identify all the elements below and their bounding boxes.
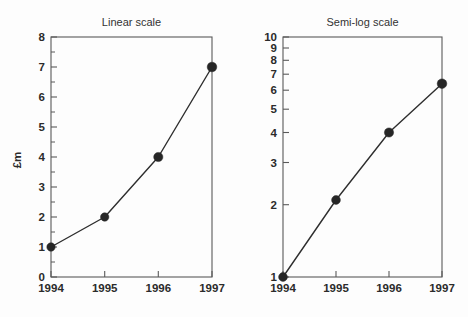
y-tick-label-linear-4: 4	[39, 151, 46, 163]
plot-frame-semilog	[283, 37, 442, 277]
y-tick-label-linear-1: 1	[39, 241, 46, 253]
y-tick-linear-4: 4	[39, 151, 57, 163]
data-point-linear-1997	[207, 62, 217, 72]
y-tick-label-semilog-9: 9	[271, 42, 277, 54]
data-point-semilog-1994	[279, 273, 288, 282]
data-point-semilog-1995	[332, 196, 341, 205]
x-tick-label-semilog-1997: 1997	[429, 282, 455, 294]
panel-semilog-scale: Semi-log scale 1 2 3 4 5	[264, 16, 455, 294]
y-tick-label-linear-3: 3	[39, 181, 45, 193]
y-tick-label-linear-8: 8	[39, 31, 46, 43]
data-point-linear-1996	[154, 152, 163, 161]
series-line-linear	[51, 67, 212, 247]
y-tick-label-semilog-4: 4	[271, 127, 278, 139]
data-point-semilog-1996	[384, 128, 393, 137]
y-tick-semilog-2: 2	[271, 199, 289, 211]
y-axis-title-linear: £m	[11, 152, 23, 169]
y-tick-label-semilog-6: 6	[271, 84, 277, 96]
data-point-semilog-1997	[437, 79, 447, 89]
x-tick-linear-1997: 1997	[199, 271, 225, 294]
y-tick-semilog-6: 6	[271, 84, 289, 96]
panel-title-linear: Linear scale	[102, 16, 161, 28]
y-tick-label-linear-7: 7	[39, 61, 45, 73]
x-axis-linear: 1994 1995 1996 1997	[38, 271, 225, 294]
y-tick-linear-6: 6	[39, 91, 57, 103]
y-tick-label-semilog-2: 2	[271, 199, 277, 211]
series-semilog	[279, 79, 447, 282]
y-tick-label-semilog-7: 7	[271, 68, 277, 80]
x-tick-semilog-1997: 1997	[429, 271, 455, 294]
x-tick-linear-1995: 1995	[92, 271, 118, 294]
x-tick-label-semilog-1994: 1994	[270, 282, 296, 294]
panel-linear-scale: Linear scale 0 1 2 3 4	[11, 16, 225, 294]
x-tick-linear-1996: 1996	[146, 271, 172, 294]
y-tick-semilog-5: 5	[271, 103, 289, 115]
x-tick-label-semilog-1995: 1995	[323, 282, 349, 294]
x-tick-label-linear-1995: 1995	[92, 282, 118, 294]
y-tick-semilog-9: 9	[271, 42, 289, 54]
x-tick-label-linear-1996: 1996	[146, 282, 172, 294]
y-tick-semilog-7: 7	[271, 68, 289, 80]
x-tick-semilog-1996: 1996	[376, 271, 402, 294]
y-tick-label-linear-6: 6	[39, 91, 45, 103]
y-tick-semilog-10: 10	[264, 31, 289, 43]
y-tick-label-linear-5: 5	[39, 121, 46, 133]
y-tick-linear-7: 7	[39, 61, 57, 73]
series-linear	[47, 62, 217, 251]
y-tick-linear-8: 8	[39, 31, 57, 43]
y-axis-semilog: 1 2 3 4 5 6 7	[264, 31, 289, 283]
y-tick-label-linear-2: 2	[39, 211, 45, 223]
y-tick-linear-3: 3	[39, 181, 57, 193]
y-tick-label-semilog-8: 8	[271, 54, 278, 66]
y-tick-label-semilog-10: 10	[264, 31, 277, 43]
y-tick-semilog-8: 8	[271, 54, 289, 66]
data-point-linear-1994	[47, 243, 55, 251]
x-tick-label-linear-1997: 1997	[199, 282, 225, 294]
data-point-linear-1995	[101, 213, 109, 221]
y-tick-semilog-4: 4	[271, 127, 289, 139]
y-tick-linear-2: 2	[39, 211, 57, 223]
x-axis-semilog: 1994 1995 1996 1997	[270, 271, 455, 294]
figure-two-panel-line-charts: Linear scale 0 1 2 3 4	[0, 0, 468, 317]
x-tick-label-linear-1994: 1994	[38, 282, 64, 294]
panel-title-semilog: Semi-log scale	[326, 16, 398, 28]
y-tick-linear-5: 5	[39, 121, 57, 133]
series-line-semilog	[283, 84, 442, 277]
y-tick-label-semilog-3: 3	[271, 157, 277, 169]
x-tick-label-semilog-1996: 1996	[376, 282, 402, 294]
x-tick-semilog-1995: 1995	[323, 271, 349, 294]
plot-frame-linear	[51, 37, 212, 277]
y-tick-semilog-3: 3	[271, 157, 289, 169]
y-tick-label-semilog-5: 5	[271, 103, 278, 115]
